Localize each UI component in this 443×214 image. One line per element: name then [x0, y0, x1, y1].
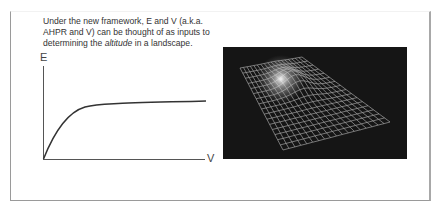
caption-line-3-end: in a landscape.	[132, 38, 192, 48]
e-v-curve	[44, 101, 207, 159]
caption-line-1: Under the new framework, E and V (a.k.a.	[43, 16, 233, 27]
e-v-chart	[30, 48, 220, 173]
caption-line-3-start: determining the	[43, 38, 105, 48]
caption-line-2: AHPR and V) can be thought of as inputs …	[43, 27, 233, 38]
landscape-image	[223, 47, 407, 159]
wireframe-landscape	[223, 47, 407, 159]
peak-glow	[257, 55, 305, 103]
caption-emphasis-altitude: altitude	[105, 38, 133, 48]
caption-text: Under the new framework, E and V (a.k.a.…	[43, 16, 233, 49]
